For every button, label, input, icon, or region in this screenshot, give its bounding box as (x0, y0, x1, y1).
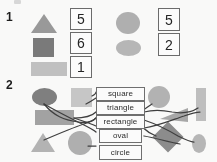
label-box-oval[interactable]: oval (99, 129, 142, 143)
rectangle-shape-vertical (196, 88, 206, 121)
label-box-circle[interactable]: circle (99, 145, 142, 160)
triangle-shape-right (160, 108, 188, 122)
square-shape (33, 38, 54, 57)
label-box-square[interactable]: square (96, 87, 145, 101)
triangle-shape (31, 14, 57, 33)
oval-shape (116, 40, 141, 56)
answer-box-5[interactable]: 2 (158, 33, 180, 56)
label-box-triangle[interactable]: triangle (96, 101, 145, 115)
answer-box-4[interactable]: 5 (158, 8, 180, 31)
exercise-number-1: 1 (6, 10, 13, 24)
scan-smudge (14, 0, 21, 4)
circle-shape (116, 12, 140, 34)
exercise-number-2: 2 (6, 78, 13, 92)
rectangle-shape-mid (35, 110, 74, 125)
worksheet-page: 1 5 6 1 5 2 2 (0, 0, 217, 162)
circle-shape-right (148, 86, 170, 108)
triangle-shape-light (31, 133, 55, 152)
answer-box-3[interactable]: 1 (70, 56, 92, 78)
answer-box-2[interactable]: 6 (70, 32, 92, 54)
oval-shape-dark (32, 88, 57, 106)
diamond-shape (152, 121, 183, 152)
circle-shape-left (68, 131, 92, 155)
rectangle-shape (31, 62, 67, 76)
oval-shape-right (192, 134, 206, 153)
square-shape-light (71, 88, 92, 107)
label-box-rectangle[interactable]: rectangle (96, 115, 145, 129)
answer-box-1[interactable]: 5 (70, 8, 92, 30)
